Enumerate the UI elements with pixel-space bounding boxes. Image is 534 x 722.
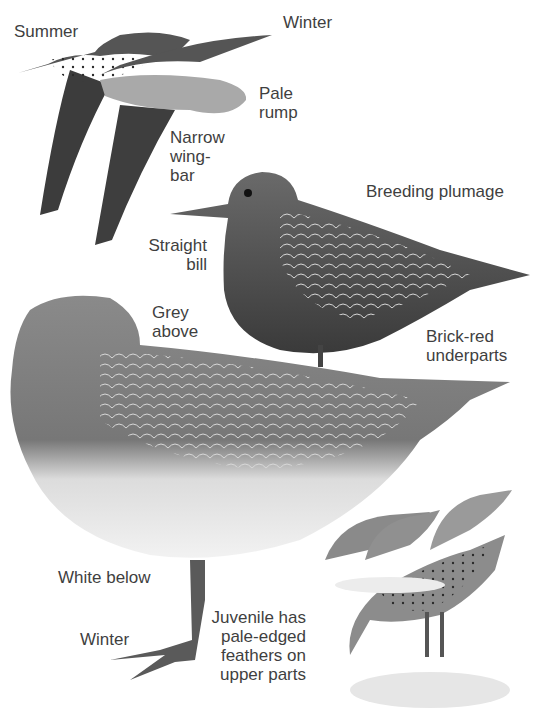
label-juvenile: Juvenile has pale-edged feathers on uppe…	[190, 608, 306, 684]
label-breeding-plumage: Breeding plumage	[366, 182, 504, 201]
label-winter-standing: Winter	[80, 630, 129, 649]
label-winter-flight: Winter	[283, 13, 332, 32]
juvenile-birds-feeding	[325, 490, 512, 708]
label-narrow-wingbar: Narrow wing- bar	[170, 128, 225, 185]
label-straight-bill: Straight bill	[137, 236, 207, 274]
label-summer: Summer	[14, 22, 78, 41]
label-brick-red-underparts: Brick-red underparts	[426, 327, 507, 365]
field-guide-plate: Summer Winter Pale rump Narrow wing- bar…	[0, 0, 534, 722]
label-grey-above: Grey above	[152, 303, 198, 341]
label-pale-rump: Pale rump	[259, 84, 298, 122]
label-white-below: White below	[58, 568, 151, 587]
